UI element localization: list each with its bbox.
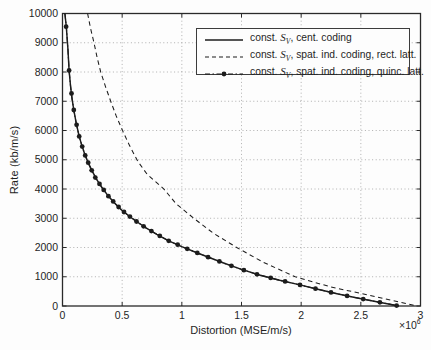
- series-quinc-latt-marker: [242, 268, 247, 273]
- y-tick-label: 10000: [29, 7, 58, 19]
- series-quinc-latt-marker: [255, 272, 260, 277]
- series-quinc-latt-marker: [206, 255, 211, 260]
- y-tick-label: 0: [52, 300, 58, 312]
- series-quinc-latt-marker: [329, 290, 334, 295]
- y-tick-label: 6000: [35, 124, 59, 136]
- series-quinc-latt-marker: [74, 122, 79, 127]
- x-tick-label: 2: [298, 309, 304, 321]
- series-quinc-latt-marker: [89, 168, 94, 173]
- x-tick-label: 0: [60, 309, 66, 321]
- y-tick-label: 5000: [35, 153, 59, 165]
- series-quinc-latt-marker: [361, 297, 366, 302]
- series-quinc-latt-marker: [93, 175, 98, 180]
- y-tick-label: 2000: [35, 241, 59, 253]
- series-quinc-latt-marker: [175, 242, 180, 247]
- series-quinc-latt-marker: [141, 224, 146, 229]
- rate-distortion-figure: 00.511.522.53010002000300040005000600070…: [0, 0, 431, 350]
- series-quinc-latt-marker: [166, 238, 171, 243]
- x-tick-label: 2.5: [354, 309, 369, 321]
- series-quinc-latt-marker: [217, 259, 222, 264]
- series-quinc-latt-marker: [106, 194, 111, 199]
- series-quinc-latt-marker: [122, 210, 127, 215]
- y-tick-label: 9000: [35, 36, 59, 48]
- series-quinc-latt-marker: [134, 219, 139, 224]
- series-quinc-latt-marker: [229, 263, 234, 268]
- series-quinc-latt-marker: [71, 108, 76, 113]
- legend-text: const.: [250, 32, 280, 43]
- x-tick-label: 0.5: [115, 309, 130, 321]
- legend-label-rect-latt: const. SV, spat. ind. coding, rect. latt…: [250, 48, 416, 65]
- y-tick-label: 8000: [35, 66, 59, 78]
- legend-dashed-line-sample: [203, 52, 245, 62]
- series-quinc-latt-marker: [111, 199, 116, 204]
- series-quinc-latt-marker: [69, 91, 74, 96]
- series-quinc-latt-marker: [64, 24, 69, 29]
- series-quinc-latt-marker: [313, 286, 318, 291]
- legend-text: , spat. ind. coding, quinc. latt.: [290, 66, 423, 77]
- legend-item-rect-latt: const. SV, spat. ind. coding, rect. latt…: [203, 48, 406, 65]
- legend-text: const.: [250, 49, 280, 60]
- y-tick-label: 1000: [35, 270, 59, 282]
- series-quinc-latt-marker: [67, 68, 72, 73]
- legend-text: , spat. ind. coding, rect. latt.: [290, 49, 416, 60]
- y-axis-label: Rate (kb/m/s): [8, 126, 20, 195]
- series-quinc-latt-marker: [77, 134, 82, 139]
- legend-marker-dot-icon: [222, 71, 227, 76]
- series-quinc-latt-marker: [283, 279, 288, 284]
- series-quinc-latt-marker: [80, 144, 85, 149]
- legend-text: const.: [250, 66, 280, 77]
- legend-item-quinc-latt: const. SV, spat. ind. coding, quinc. lat…: [203, 65, 406, 82]
- x-tick-label: 1.5: [234, 309, 249, 321]
- series-quinc-latt-marker: [86, 160, 91, 165]
- series-quinc-latt-marker: [127, 214, 132, 219]
- x-axis-label: Distortion (MSE/m/s): [190, 324, 291, 336]
- x-tick-label: 1: [179, 309, 185, 321]
- series-quinc-latt-marker: [97, 182, 102, 187]
- series-quinc-latt-marker: [298, 283, 303, 288]
- x-axis-exponent-label: ×106: [399, 318, 421, 331]
- legend-dashdot-line-sample: [203, 69, 245, 79]
- series-quinc-latt-marker: [345, 294, 350, 299]
- series-quinc-latt-marker: [149, 229, 154, 234]
- y-tick-label: 7000: [35, 95, 59, 107]
- series-quinc-latt-marker: [195, 251, 200, 256]
- legend-text: , cent. coding: [290, 32, 351, 43]
- legend-solid-line-sample: [203, 35, 245, 45]
- exponent-power: 6: [417, 318, 421, 325]
- exponent-base: ×10: [399, 319, 417, 331]
- y-tick-label: 4000: [35, 183, 59, 195]
- y-tick-label: 3000: [35, 212, 59, 224]
- legend-label-cent-coding: const. SV, cent. coding: [250, 31, 352, 48]
- series-quinc-latt-marker: [157, 234, 162, 239]
- legend-item-cent-coding: const. SV, cent. coding: [203, 31, 406, 48]
- legend: const. SV, cent. coding const. SV, spat.…: [196, 28, 410, 75]
- series-quinc-latt-marker: [378, 300, 383, 305]
- series-quinc-latt-marker: [116, 205, 121, 210]
- series-quinc-latt-marker: [268, 276, 273, 281]
- series-quinc-latt-marker: [394, 303, 399, 308]
- series-quinc-latt-marker: [185, 246, 190, 251]
- series-quinc-latt-marker: [101, 188, 106, 193]
- legend-label-quinc-latt: const. SV, spat. ind. coding, quinc. lat…: [250, 65, 424, 82]
- series-quinc-latt-marker: [83, 153, 88, 158]
